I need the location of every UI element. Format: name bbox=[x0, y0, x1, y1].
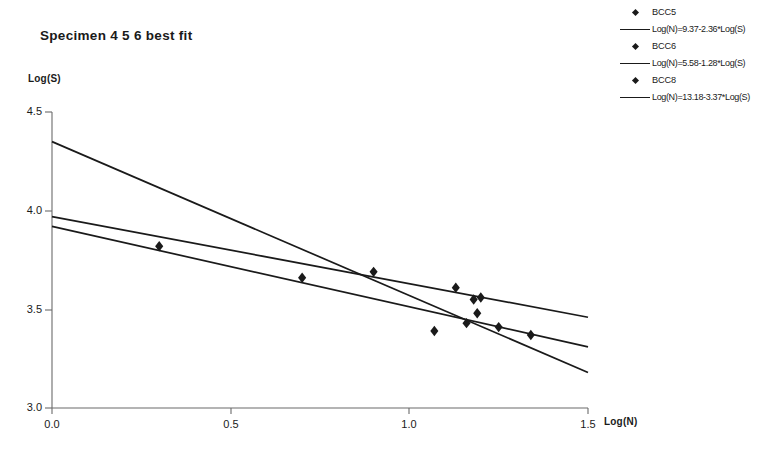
legend-item[interactable]: Log(N)=9.37-2.36*Log(S) bbox=[618, 21, 781, 38]
legend-item[interactable]: Log(N)=13.18-3.37*Log(S) bbox=[618, 89, 781, 106]
legend-line-icon bbox=[618, 24, 652, 36]
legend-item-label: Log(N)=9.37-2.36*Log(S) bbox=[652, 25, 745, 34]
legend-line-icon bbox=[618, 58, 652, 70]
data-point bbox=[477, 292, 485, 302]
data-point bbox=[527, 330, 535, 340]
data-point bbox=[473, 308, 481, 318]
legend-item-label: BCC5 bbox=[652, 8, 676, 17]
legend-marker-icon bbox=[618, 7, 652, 19]
legend: BCC5 Log(N)=9.37-2.36*Log(S) BCC6 Log(N)… bbox=[618, 4, 781, 106]
legend-marker-icon bbox=[618, 41, 652, 53]
axis-lines bbox=[45, 112, 588, 414]
legend-item[interactable]: BCC6 bbox=[618, 38, 781, 55]
chart-container: Specimen 4 5 6 best fit Log(S) Log(N) 4.… bbox=[0, 0, 781, 449]
fit-line bbox=[52, 226, 588, 346]
fit-lines bbox=[52, 142, 588, 373]
fit-line bbox=[52, 142, 588, 373]
legend-item-label: Log(N)=13.18-3.37*Log(S) bbox=[652, 93, 750, 102]
legend-marker-icon bbox=[618, 75, 652, 87]
data-point bbox=[495, 322, 503, 332]
legend-item[interactable]: Log(N)=5.58-1.28*Log(S) bbox=[618, 55, 781, 72]
data-point bbox=[430, 326, 438, 336]
legend-line-icon bbox=[618, 92, 652, 104]
data-point bbox=[370, 267, 378, 277]
legend-item[interactable]: BCC8 bbox=[618, 72, 781, 89]
fit-line bbox=[52, 217, 588, 318]
legend-item-label: BCC6 bbox=[652, 42, 676, 51]
legend-item[interactable]: BCC5 bbox=[618, 4, 781, 21]
legend-item-label: BCC8 bbox=[652, 76, 676, 85]
legend-item-label: Log(N)=5.58-1.28*Log(S) bbox=[652, 59, 745, 68]
